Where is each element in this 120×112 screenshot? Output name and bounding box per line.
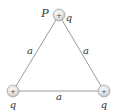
- charge-sign-bottom-left: +: [10, 88, 16, 96]
- side-label-left: a: [27, 45, 33, 56]
- point-label-p: P: [40, 7, 49, 20]
- charge-label-bottom-left: q: [10, 99, 16, 110]
- charge-sign-bottom-right: +: [101, 88, 107, 96]
- charge-label-top: q: [66, 12, 72, 23]
- triangle-diagram: + + + P q q q a a a: [0, 0, 120, 112]
- charge-label-bottom-right: q: [101, 99, 107, 110]
- side-label-bottom: a: [56, 91, 62, 102]
- side-left: [13, 15, 59, 91]
- side-right: [59, 15, 104, 91]
- charge-sign-top: +: [56, 12, 62, 20]
- charge-bottom-right: +: [98, 85, 110, 97]
- charge-top: +: [53, 9, 65, 21]
- side-label-right: a: [83, 45, 89, 56]
- charge-bottom-left: +: [7, 85, 19, 97]
